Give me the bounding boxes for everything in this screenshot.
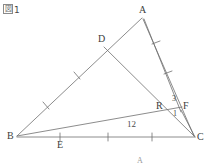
- vertex-label-r: R: [156, 101, 163, 111]
- segment-ab: [17, 18, 142, 136]
- segment-fc: [181, 110, 195, 137]
- vertex-label-d: D: [98, 34, 105, 44]
- vertex-label-e: E: [57, 140, 63, 150]
- segment-br: [17, 107, 182, 136]
- angle-label-3: 3: [172, 95, 176, 103]
- geometry-figure-canvas: 図1 A B C D E F R 3 1 12 A: [0, 0, 213, 164]
- tick-mark: [74, 72, 80, 79]
- figure-caption-number: 1: [14, 5, 20, 15]
- vertex-label-c: C: [197, 132, 204, 142]
- figure-caption: 図1: [3, 4, 20, 16]
- figure-caption-cjk: 図: [3, 4, 13, 14]
- tick-group-ab: [43, 72, 80, 109]
- vertex-label-a: A: [139, 5, 146, 15]
- tick-mark: [43, 102, 49, 109]
- next-figure-vertex-a: A: [137, 157, 143, 164]
- vertex-label-f: F: [183, 101, 189, 111]
- segment-dc: [104, 47, 194, 136]
- segment-length-label-12: 12: [127, 120, 136, 129]
- vertex-label-b: B: [7, 131, 14, 141]
- geometry-drawing: [0, 0, 213, 164]
- angle-label-1: 1: [173, 110, 177, 118]
